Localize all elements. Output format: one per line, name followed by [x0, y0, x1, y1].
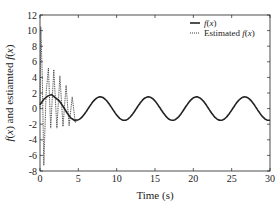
- plot-frame: [40, 15, 270, 171]
- legend-label-estimated: Estimated f(x): [204, 28, 255, 38]
- x-tick-label: 10: [112, 173, 122, 184]
- legend: f(x) Estimated f(x): [190, 18, 255, 38]
- y-axis-label: f(x) and estiamted f(x): [3, 44, 16, 141]
- y-tick-label: 10: [27, 25, 37, 36]
- y-tick-label: 2: [32, 88, 37, 99]
- x-tick-label: 0: [38, 173, 43, 184]
- y-tick-label: 8: [32, 41, 37, 52]
- y-tick-label: 12: [27, 10, 37, 21]
- y-tick-label: -6: [29, 150, 37, 161]
- series-group: [40, 27, 270, 166]
- x-tick-label: 15: [150, 173, 160, 184]
- y-tick-label: -4: [29, 134, 37, 145]
- y-tick-label: -8: [29, 166, 37, 177]
- y-tick-label: 0: [32, 103, 37, 114]
- legend-label-fx: f(x): [204, 18, 217, 28]
- x-tick-label: 30: [265, 173, 275, 184]
- series-estimated-fx: [40, 27, 78, 166]
- x-axis-label: Time (s): [136, 189, 174, 202]
- plot-area: [40, 15, 270, 171]
- x-tick-label: 20: [188, 173, 198, 184]
- line-chart: 051015202530-8-6-4-2024681012 Time (s) f…: [0, 0, 275, 206]
- x-tick-label: 25: [227, 173, 237, 184]
- y-tick-label: 6: [32, 56, 37, 67]
- y-tick-label: -2: [29, 119, 37, 130]
- y-tick-label: 4: [32, 72, 37, 83]
- x-tick-label: 5: [76, 173, 81, 184]
